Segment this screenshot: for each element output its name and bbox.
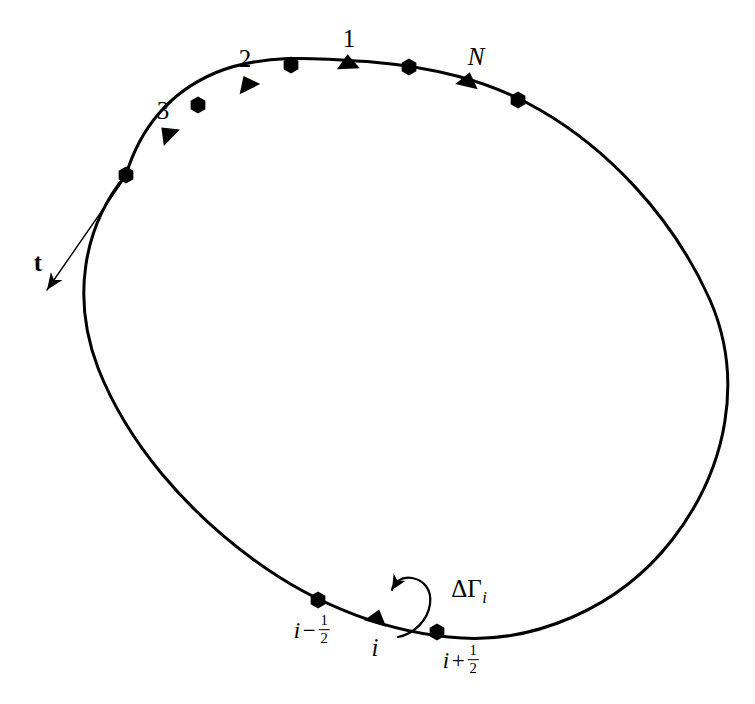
vortex-filament-diagram: 1 2 3 N t i−12 i i+12 ΔΓi	[0, 0, 755, 704]
node-label-1: 1	[343, 26, 356, 51]
hexagon-node-marker	[311, 592, 326, 609]
midpoint-label-i-plus-half: i+12	[443, 643, 479, 677]
fraction-denominator: 2	[468, 661, 479, 677]
fraction-numerator: 1	[319, 613, 330, 630]
node-label-n: N	[468, 44, 485, 69]
delta-symbol: Δ	[451, 575, 467, 602]
triangle-node-marker	[455, 70, 481, 89]
node-label-3: 3	[157, 98, 170, 123]
hexagon-node-marker	[191, 97, 206, 114]
circulation-loop-arrow-head	[386, 574, 406, 594]
one-half-fraction: 12	[468, 643, 479, 677]
triangle-node-marker	[233, 71, 260, 94]
i-plus-operator: +	[452, 648, 465, 673]
fraction-denominator: 2	[319, 631, 330, 647]
i-plus-base: i	[443, 648, 449, 673]
i-minus-operator: −	[303, 618, 316, 643]
tangent-vector-label: t	[34, 250, 42, 275]
closed-contour-curve	[84, 58, 728, 638]
node-marker-group	[119, 54, 526, 641]
midpoint-label-i-minus-half: i−12	[294, 613, 330, 647]
gamma-symbol: Γ	[467, 575, 481, 602]
node-label-2: 2	[239, 46, 252, 71]
i-minus-base: i	[294, 618, 300, 643]
tangent-vector-arrow-shaft	[47, 176, 126, 290]
hexagon-node-marker	[511, 92, 526, 109]
hexagon-node-marker	[402, 59, 417, 76]
diagram-canvas	[0, 0, 755, 704]
fraction-numerator: 1	[468, 643, 479, 660]
arrow-group	[41, 176, 430, 637]
hexagon-node-marker	[430, 624, 445, 641]
one-half-fraction: 12	[319, 613, 330, 647]
node-label-i: i	[372, 635, 379, 660]
circulation-subscript: i	[482, 588, 487, 607]
contour-curve-group	[84, 58, 728, 638]
circulation-increment-label: ΔΓi	[451, 576, 486, 606]
tangent-vector-arrow-head	[41, 272, 62, 294]
